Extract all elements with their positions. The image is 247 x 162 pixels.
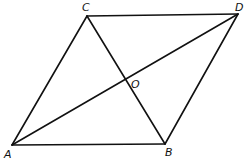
label-d: D <box>235 1 243 14</box>
label-b: B <box>165 146 173 159</box>
label-a: A <box>3 148 12 161</box>
side-bd <box>165 14 238 144</box>
parallelogram-diagram: C D O A B <box>0 0 247 162</box>
label-o: O <box>131 78 140 91</box>
side-dc <box>87 14 238 16</box>
label-c: C <box>82 1 90 14</box>
side-ab <box>12 144 165 145</box>
side-ca <box>12 16 87 145</box>
diagonal-cb <box>87 16 165 144</box>
